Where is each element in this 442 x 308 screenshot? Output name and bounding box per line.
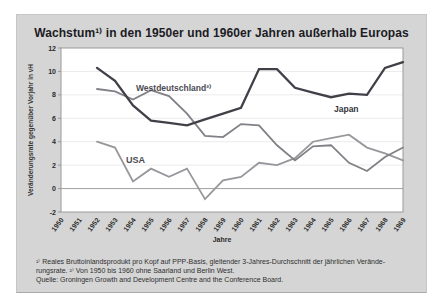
x-tick-label: 1955 [140, 216, 155, 232]
y-tick-label: 2 [52, 162, 56, 169]
x-tick-label: 1969 [392, 216, 407, 232]
x-tick-label: 1967 [356, 216, 371, 232]
x-tick-label: 1954 [122, 216, 137, 232]
x-tick-label: 1965 [320, 216, 335, 232]
series-label-usa: USA [126, 155, 145, 165]
y-tick-label: -2 [50, 209, 56, 216]
x-tick-label: 1958 [194, 216, 209, 232]
x-tick-label: 1952 [86, 216, 101, 232]
y-tick-label: 4 [52, 138, 56, 145]
y-axis-label: Veränderungsrate gegenüber Vorjahr in vH [27, 64, 34, 196]
footnotes: ¹⁾ Reales Bruttoinlandsprodukt pro Kopf … [36, 258, 414, 284]
y-tick-label: 10 [48, 68, 56, 75]
x-tick-label: 1959 [212, 216, 227, 232]
x-tick-label: 1951 [68, 216, 83, 232]
x-tick-label: 1963 [284, 216, 299, 232]
x-tick-label: 1968 [374, 216, 389, 232]
x-tick-label: 1964 [302, 216, 317, 232]
page: Wachstum¹⁾ in den 1950er und 1960er Jahr… [0, 0, 442, 308]
series-label-japan: Japan [334, 104, 359, 114]
x-tick-label: 1966 [338, 216, 353, 232]
x-tick-label: 1957 [176, 216, 191, 232]
x-tick-label: 1961 [248, 216, 263, 232]
source-line: Quelle: Groningen Growth and Development… [36, 276, 414, 285]
footnote-line-1: ¹⁾ Reales Bruttoinlandsprodukt pro Kopf … [36, 258, 414, 267]
series-label-westdeutschland: Westdeutschland²⁾ [136, 83, 211, 93]
x-tick-label: 1953 [104, 216, 119, 232]
y-tick-label: 6 [52, 115, 56, 122]
x-tick-label: 1950 [50, 216, 65, 232]
x-tick-label: 1956 [158, 216, 173, 232]
y-tick-label: 8 [52, 91, 56, 98]
x-tick-label: 1962 [266, 216, 281, 232]
x-axis-label: Jahre [204, 236, 240, 243]
y-tick-label: 0 [52, 185, 56, 192]
footnote-line-2: rungsrate. ²⁾ Von 1950 bis 1960 ohne Saa… [36, 267, 414, 276]
x-tick-label: 1960 [230, 216, 245, 232]
y-tick-label: 12 [48, 45, 56, 52]
